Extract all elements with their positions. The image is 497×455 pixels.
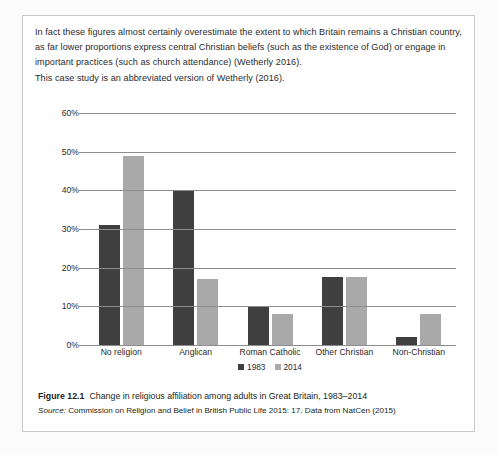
- figure-caption: Figure 12.1Change in religious affiliati…: [38, 389, 463, 418]
- caption-figure-number: Figure 12.1: [38, 391, 84, 401]
- caption-title-line: Figure 12.1Change in religious affiliati…: [38, 389, 463, 403]
- caption-title-text: Change in religious affiliation among ad…: [89, 391, 367, 401]
- bar-2014[interactable]: [123, 156, 144, 345]
- y-axis-label: 0%: [23, 341, 79, 350]
- x-axis-category-label: Other Christian: [307, 347, 381, 358]
- y-axis-label: 60%: [23, 109, 79, 118]
- figure-box: In fact these figures almost certainly o…: [22, 15, 475, 432]
- y-axis-label: 10%: [23, 302, 79, 311]
- y-tickmark: [79, 152, 85, 153]
- bar-1983[interactable]: [99, 225, 120, 345]
- y-tickmark: [79, 306, 85, 307]
- chart-legend: 19832014: [84, 362, 456, 372]
- caption-source-line: Source: Commission on Religion and Belie…: [38, 404, 463, 418]
- caption-source-label: Source:: [38, 406, 66, 415]
- legend-label: 1983: [247, 362, 265, 372]
- gridline-0%: [84, 345, 456, 346]
- bar-1983[interactable]: [248, 306, 269, 345]
- legend-item-2014[interactable]: 2014: [275, 362, 302, 372]
- bar-2014[interactable]: [197, 279, 218, 345]
- page-background: In fact these figures almost certainly o…: [0, 0, 497, 455]
- legend-item-1983[interactable]: 1983: [238, 362, 265, 372]
- y-tickmark: [79, 345, 85, 346]
- y-axis-label: 30%: [23, 225, 79, 234]
- y-axis-label: 50%: [23, 147, 79, 156]
- y-tickmark: [79, 229, 85, 230]
- x-axis-category-label: Anglican: [158, 347, 232, 358]
- y-axis-label: 20%: [23, 263, 79, 272]
- caption-source-text: Commission on Religion and Belief in Bri…: [68, 406, 396, 415]
- intro-paragraph-2: This case study is an abbreviated versio…: [35, 71, 465, 86]
- bar-2014[interactable]: [272, 314, 293, 345]
- bar-1983[interactable]: [396, 337, 417, 345]
- x-axis-category-label: Non-Christian: [382, 347, 456, 358]
- x-axis-category-label: No religion: [84, 347, 158, 358]
- y-axis-label: 40%: [23, 186, 79, 195]
- bar-chart: 0%10%20%30%40%50%60% No religionAnglican…: [23, 104, 474, 376]
- y-tickmark: [79, 113, 85, 114]
- bar-2014[interactable]: [420, 314, 441, 345]
- legend-swatch-icon: [275, 364, 281, 370]
- gridline-30%: [84, 229, 456, 230]
- bar-2014[interactable]: [346, 277, 367, 345]
- legend-label: 2014: [284, 362, 302, 372]
- gridline-50%: [84, 152, 456, 153]
- intro-text-block: In fact these figures almost certainly o…: [35, 25, 465, 86]
- chart-plot-area: 0%10%20%30%40%50%60%: [84, 113, 456, 345]
- legend-swatch-icon: [238, 364, 244, 370]
- gridline-10%: [84, 306, 456, 307]
- bar-1983[interactable]: [322, 277, 343, 345]
- chart-x-axis-labels: No religionAnglicanRoman CatholicOther C…: [84, 347, 456, 358]
- x-axis-category-label: Roman Catholic: [233, 347, 307, 358]
- y-tickmark: [79, 190, 85, 191]
- intro-paragraph-1: In fact these figures almost certainly o…: [35, 25, 465, 71]
- y-tickmark: [79, 268, 85, 269]
- gridline-60%: [84, 113, 456, 114]
- gridline-40%: [84, 190, 456, 191]
- gridline-20%: [84, 268, 456, 269]
